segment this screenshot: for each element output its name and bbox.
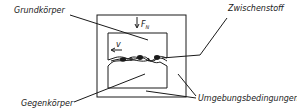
velocity-label: v <box>116 40 121 49</box>
tribosystem-diagram: FN v Grundkörper Zwischenstoff Gegenkörp… <box>0 0 297 111</box>
particle <box>120 57 126 61</box>
particle <box>154 55 160 60</box>
normal-force-label: FN <box>141 20 150 30</box>
label-grundkoerper: Grundkörper <box>14 6 66 15</box>
label-umgebungsbedingungen: Umgebungsbedingungen <box>198 94 297 103</box>
leader-zwischenstoff <box>162 18 227 58</box>
label-gegenkoerper: Gegenkörper <box>21 99 74 108</box>
counter-body <box>108 60 167 88</box>
label-zwischenstoff: Zwischenstoff <box>227 4 285 13</box>
particle <box>137 55 143 60</box>
leader-umgebung-1 <box>178 74 196 96</box>
